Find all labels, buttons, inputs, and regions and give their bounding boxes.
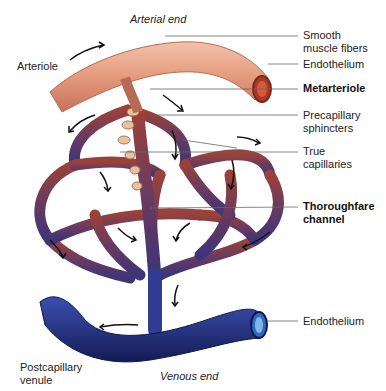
smooth-muscle-fibers-label: Smooth muscle fibers <box>303 29 368 55</box>
capillary-network <box>40 110 279 330</box>
precapillary-sphincters-label: Precapillary sphincters <box>303 109 360 135</box>
metarteriole-label: Metarteriole <box>303 82 365 95</box>
thoroughfare-channel-label: Thoroughfare channel <box>303 200 375 226</box>
arterial-end-label: Arterial end <box>130 13 186 26</box>
arteriole-label: Arteriole <box>17 60 58 73</box>
endothelium-bottom-label: Endothelium <box>303 315 364 328</box>
venous-end-label: Venous end <box>160 370 218 383</box>
postcapillary-venule-label: Postcapillary venule <box>20 361 82 387</box>
endothelium-top-label: Endothelium <box>303 58 364 71</box>
capillary-bed-diagram: Arterial end Arteriole Smooth muscle fib… <box>0 0 386 391</box>
true-capillaries-label: True capillaries <box>303 145 352 171</box>
